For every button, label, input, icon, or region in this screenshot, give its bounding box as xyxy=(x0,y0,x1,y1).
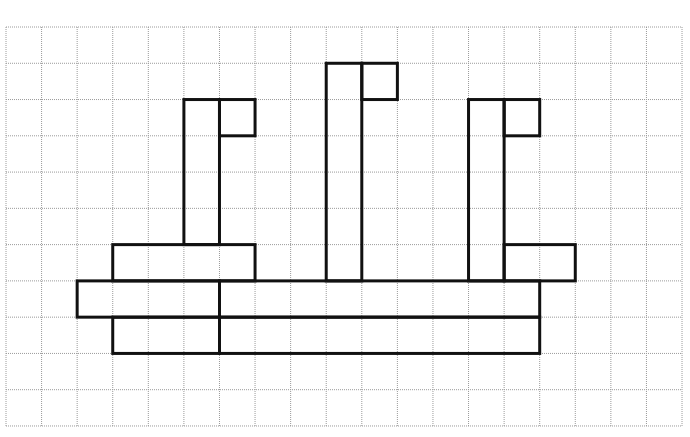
right-tower xyxy=(469,100,505,281)
grid-diagram xyxy=(0,0,690,437)
middle-bar xyxy=(77,281,540,317)
right-tower-hook xyxy=(504,100,540,136)
middle-tower-hook xyxy=(362,63,398,99)
left-tower-hook xyxy=(219,100,255,136)
grid-paper xyxy=(6,27,682,426)
